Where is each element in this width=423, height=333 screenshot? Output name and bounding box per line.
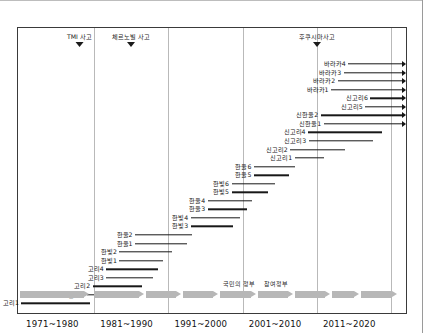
- gantt-bar: [321, 115, 403, 116]
- government-term-bar: [94, 291, 139, 298]
- gantt-row-label: 신고리4: [284, 128, 308, 136]
- gantt-bar: [344, 72, 403, 73]
- gantt-bar: [21, 303, 89, 304]
- arrow-right-icon: [402, 70, 406, 76]
- x-axis-tick-label: 2001~2010: [249, 319, 302, 329]
- timeline-chart-root: TMI 사고체르노빌 사고후쿠시마사고 바라카4바라카3바라카2바라카1신고리6…: [0, 0, 423, 333]
- gantt-row-label: 한빛4: [172, 214, 190, 222]
- arrow-right-icon: [402, 112, 406, 118]
- arrow-right-icon: [402, 61, 406, 67]
- gantt-row-label: 한울2: [117, 231, 135, 239]
- event-marker-label: TMI 사고: [67, 32, 92, 41]
- x-axis-tick-label: 1981~1990: [100, 319, 153, 329]
- gantt-row-label: 고리4: [88, 265, 106, 273]
- x-axis-tick-label: 2011~2020: [323, 319, 376, 329]
- gantt-bar: [254, 166, 295, 167]
- event-marker-label: 후쿠시마사고: [299, 32, 335, 41]
- gantt-row-label: 신고리2: [266, 146, 290, 154]
- gantt-bar: [135, 243, 187, 244]
- gantt-row-label: 한빛2: [101, 248, 119, 256]
- event-marker-1: TMI 사고: [67, 32, 92, 47]
- gantt-bar: [370, 97, 403, 98]
- gantt-bar: [295, 157, 325, 158]
- gantt-bar: [106, 268, 158, 269]
- gantt-bar: [232, 183, 276, 184]
- gantt-bar: [232, 192, 268, 193]
- arrow-right-icon: [402, 104, 406, 110]
- event-marker-2: 체르노빌 사고: [112, 32, 150, 47]
- arrow-right-icon: [325, 291, 330, 297]
- event-marker-3: 후쿠시마사고: [299, 32, 335, 47]
- arrow-right-icon: [402, 78, 406, 84]
- government-term-bar: [220, 291, 250, 298]
- government-term-band: [18, 291, 406, 298]
- government-term-segment: [361, 291, 396, 298]
- government-term-segment: [220, 291, 255, 298]
- gantt-bar: [290, 149, 345, 150]
- gantt-row: 고리1: [21, 298, 89, 308]
- government-term-bar: [183, 291, 213, 298]
- gridline-2011: [317, 28, 318, 313]
- government-term-name: 참여정부: [264, 279, 288, 288]
- arrow-right-icon: [402, 87, 406, 93]
- chart-plot-frame: TMI 사고체르노빌 사고후쿠시마사고 바라카4바라카3바라카2바라카1신고리6…: [17, 27, 407, 314]
- government-term-bar: [295, 291, 325, 298]
- government-term-segment: [146, 291, 181, 298]
- arrow-right-icon: [288, 291, 293, 297]
- gantt-bar: [324, 123, 403, 124]
- gantt-bar: [93, 286, 143, 287]
- arrow-right-icon: [392, 291, 397, 297]
- gantt-bar: [348, 63, 403, 64]
- gantt-bar: [135, 234, 192, 235]
- gantt-row-label: 고리1: [3, 299, 21, 307]
- gantt-bar: [106, 277, 153, 278]
- arrow-right-icon: [213, 291, 218, 297]
- arrow-right-icon: [354, 291, 359, 297]
- gantt-bar: [338, 80, 403, 81]
- gantt-bar: [331, 89, 403, 90]
- gantt-bar: [191, 217, 240, 218]
- event-marker-label: 체르노빌 사고: [112, 32, 150, 41]
- gantt-row: 한빛3: [191, 221, 233, 231]
- triangle-down-icon: [127, 42, 135, 47]
- gantt-bar: [119, 260, 163, 261]
- gantt-row: 신고리1: [295, 153, 325, 163]
- arrow-right-icon: [176, 291, 181, 297]
- government-term-segment: [20, 291, 89, 298]
- gantt-bar: [191, 226, 233, 227]
- gantt-bar: [308, 132, 381, 133]
- government-term-segment: [332, 291, 360, 298]
- government-term-name: 국민의 정부: [223, 279, 255, 288]
- gantt-row-label: 신한울2: [296, 111, 320, 119]
- arrow-right-icon: [402, 121, 406, 127]
- arrow-right-icon: [251, 291, 256, 297]
- government-term-bar: [146, 291, 176, 298]
- gantt-row-label: 바라카1: [307, 86, 331, 94]
- gantt-bar: [254, 174, 290, 175]
- government-term-segment: [258, 291, 293, 298]
- gantt-row-label: 한울6: [235, 163, 253, 171]
- gantt-bar: [208, 200, 252, 201]
- x-axis-tick-label: 1971~1980: [26, 319, 79, 329]
- arrow-right-icon: [139, 291, 144, 297]
- government-term-segment: [295, 291, 330, 298]
- arrow-right-icon: [84, 291, 89, 297]
- gantt-bar: [208, 209, 247, 210]
- arrow-right-icon: [402, 95, 406, 101]
- gantt-bar: [309, 140, 374, 141]
- government-term-bar: [20, 291, 84, 298]
- triangle-down-icon: [313, 42, 321, 47]
- gantt-row-label: 한빛6: [213, 180, 231, 188]
- x-axis-tick-label: 1991~2000: [174, 319, 227, 329]
- triangle-down-icon: [75, 42, 83, 47]
- page-edge-top: [0, 0, 423, 1]
- government-term-bar: [258, 291, 288, 298]
- gantt-bar: [119, 251, 172, 252]
- government-term-segment: [183, 291, 218, 298]
- government-term-bar: [361, 291, 391, 298]
- gantt-row-label: 한울4: [189, 197, 207, 205]
- government-term-segment: [94, 291, 144, 298]
- gridline-1991: [168, 28, 169, 313]
- gantt-bar: [365, 106, 403, 107]
- government-term-bar: [332, 291, 355, 298]
